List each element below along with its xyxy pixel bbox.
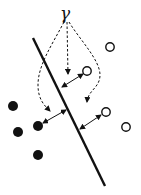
- diagram-svg: [0, 0, 141, 195]
- filled-point: [33, 121, 43, 131]
- margin-arrow-2: [80, 115, 101, 129]
- dashed-arrow-left: [38, 22, 64, 111]
- open-point: [102, 108, 110, 116]
- margin-arrow-1: [62, 74, 83, 87]
- dashed-arrow-center: [67, 22, 68, 74]
- open-points: [83, 43, 130, 131]
- filled-point: [13, 127, 23, 137]
- separating-hyperplane: [33, 38, 105, 186]
- open-point: [122, 123, 130, 131]
- filled-point: [33, 150, 43, 160]
- filled-points: [8, 101, 43, 160]
- margin-arrow-3: [43, 110, 66, 123]
- open-point: [106, 43, 114, 51]
- gamma-label: γ: [60, 5, 70, 22]
- open-point: [83, 67, 91, 75]
- svm-margin-diagram: γ: [0, 0, 141, 195]
- filled-point: [8, 101, 18, 111]
- dashed-arrow-right: [69, 22, 100, 102]
